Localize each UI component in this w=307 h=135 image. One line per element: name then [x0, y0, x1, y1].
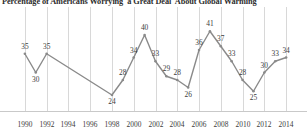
data-point: [122, 79, 125, 82]
data-label: 36: [195, 39, 202, 47]
data-point: [111, 94, 114, 97]
data-point: [263, 71, 266, 74]
data-point: [45, 52, 48, 55]
data-point: [241, 79, 244, 82]
x-tick-label: 1994: [61, 120, 76, 129]
x-tick-label: 2008: [214, 120, 229, 129]
data-label: 25: [250, 94, 257, 102]
data-label: 30: [261, 62, 268, 70]
x-tick-label: 2014: [279, 120, 294, 129]
data-label: 33: [228, 50, 235, 58]
data-label: 34: [130, 47, 137, 55]
x-tick-label: 1996: [83, 120, 98, 129]
data-label: 34: [282, 47, 289, 55]
data-point: [34, 71, 37, 74]
x-tick-label: 2012: [257, 120, 272, 129]
data-label: 29: [163, 65, 170, 73]
data-point: [252, 90, 255, 93]
data-point: [132, 56, 135, 59]
x-tick-label: 1992: [40, 120, 55, 129]
x-tick-label: 2002: [149, 120, 164, 129]
data-label: 24: [108, 98, 115, 106]
data-point: [154, 60, 157, 63]
data-point: [230, 60, 233, 63]
data-point: [220, 45, 223, 48]
x-tick-label: 2006: [192, 120, 207, 129]
x-tick-label: 2000: [127, 120, 142, 129]
x-axis-line: [0, 111, 307, 112]
data-label: 35: [21, 43, 28, 51]
data-series-line: [0, 7, 307, 112]
series-polyline: [25, 31, 286, 95]
data-label: 35: [43, 43, 50, 51]
data-label: 28: [239, 69, 246, 77]
data-label: 37: [217, 35, 224, 43]
data-point: [165, 75, 168, 78]
x-tick-label: 2004: [170, 120, 185, 129]
data-label: 28: [119, 69, 126, 77]
data-point: [143, 34, 146, 37]
data-label: 40: [141, 24, 148, 32]
data-label: 41: [206, 20, 213, 28]
x-tick-label: 1998: [105, 120, 120, 129]
data-label: 33: [152, 50, 159, 58]
x-tick-label: 2010: [236, 120, 251, 129]
data-label: 26: [184, 91, 191, 99]
data-label: 28: [174, 69, 181, 77]
data-label: 33: [271, 50, 278, 58]
data-point: [24, 52, 27, 55]
data-point: [209, 30, 212, 33]
line-chart: Percentage of Americans Worrying 'a Grea…: [0, 0, 307, 135]
data-point: [285, 56, 288, 59]
x-axis-tick-labels: 1990199219941996199820002002200420062008…: [0, 113, 307, 135]
plot-area: 3530352428344033292826364137332825303334: [0, 7, 307, 112]
data-point: [274, 60, 277, 63]
data-label: 30: [32, 76, 39, 84]
data-point: [187, 86, 190, 89]
data-point: [198, 49, 201, 52]
data-point: [176, 79, 179, 82]
x-tick-label: 1990: [18, 120, 33, 129]
